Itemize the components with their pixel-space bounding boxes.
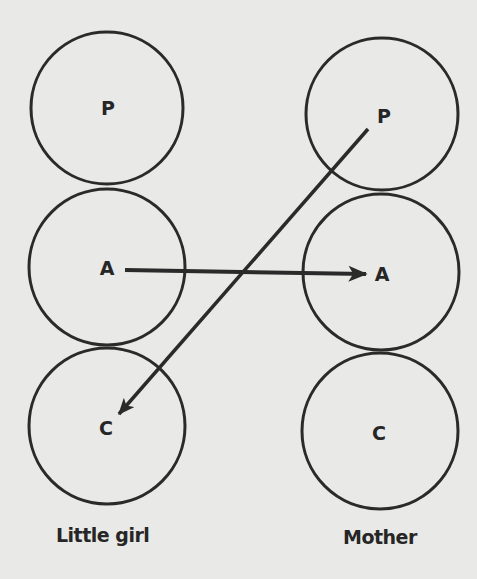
mother-adult-letter: A bbox=[375, 263, 390, 285]
little-girl-column: P A C bbox=[29, 32, 185, 504]
little-girl-label: Little girl bbox=[56, 524, 149, 546]
mother-parent-letter: P bbox=[377, 105, 391, 127]
little-girl-parent-letter: P bbox=[101, 97, 115, 119]
mother-label: Mother bbox=[343, 526, 417, 548]
transactional-analysis-diagram: P A C P A C bbox=[0, 0, 477, 579]
little-girl-child-letter: C bbox=[99, 417, 113, 439]
mother-child-letter: C bbox=[372, 422, 386, 444]
little-girl-adult-letter: A bbox=[100, 257, 115, 279]
